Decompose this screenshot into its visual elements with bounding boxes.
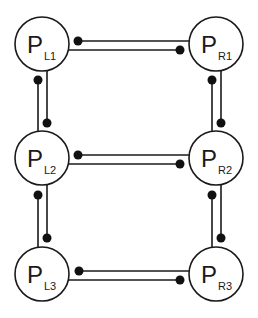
node-label-main: P — [201, 261, 217, 288]
svg-text:L2: L2 — [44, 164, 56, 176]
port-dot — [43, 234, 52, 243]
node-pr2: P R2 — [189, 131, 243, 185]
port-dot — [208, 191, 217, 200]
port-dot — [176, 46, 185, 55]
edge-pr1-pr2 — [208, 71, 226, 131]
svg-text:R3: R3 — [218, 280, 232, 292]
node-label-sub: R3 — [218, 280, 232, 292]
node-label-main: P — [201, 145, 217, 172]
node-label-main: P — [27, 261, 43, 288]
node-label-main: P — [201, 31, 217, 58]
edge-pl3-pr3 — [69, 267, 189, 285]
node-label-sub: R1 — [218, 50, 232, 62]
edge-pl2-pl3 — [34, 185, 52, 247]
node-label-sub: R2 — [218, 164, 232, 176]
node-pl2: P L2 — [15, 131, 69, 185]
node-label-main: P — [27, 31, 43, 58]
port-dot — [217, 234, 226, 243]
port-dot — [74, 37, 83, 46]
node-pr1: P R1 — [189, 17, 243, 71]
port-dot — [208, 76, 217, 85]
svg-text:L1: L1 — [44, 50, 56, 62]
port-dot — [74, 151, 83, 160]
edge-pl1-pl2 — [34, 71, 52, 131]
port-dot — [217, 119, 226, 128]
svg-text:R2: R2 — [218, 164, 232, 176]
svg-text:P: P — [27, 31, 43, 58]
node-label-sub: L2 — [44, 164, 56, 176]
port-dot — [43, 119, 52, 128]
port-dot — [176, 276, 185, 285]
node-label-sub: L3 — [44, 280, 56, 292]
svg-text:L3: L3 — [44, 280, 56, 292]
port-dot — [34, 76, 43, 85]
node-pl1: P L1 — [15, 17, 69, 71]
node-label-sub: L1 — [44, 50, 56, 62]
svg-text:P: P — [27, 261, 43, 288]
edge-pl1-pr1 — [69, 37, 189, 55]
port-dot — [176, 160, 185, 169]
node-label-main: P — [27, 145, 43, 172]
svg-text:R1: R1 — [218, 50, 232, 62]
svg-text:P: P — [201, 145, 217, 172]
port-dot — [75, 267, 84, 276]
svg-text:P: P — [201, 31, 217, 58]
edge-pr2-pr3 — [208, 185, 226, 247]
svg-text:P: P — [27, 145, 43, 172]
edge-pl2-pr2 — [69, 151, 189, 169]
node-pr3: P R3 — [189, 247, 243, 301]
node-pl3: P L3 — [15, 247, 69, 301]
svg-text:P: P — [201, 261, 217, 288]
process-diagram: P L1 P R1 P L2 P R2 P L3 P R3 — [0, 0, 258, 318]
port-dot — [34, 191, 43, 200]
